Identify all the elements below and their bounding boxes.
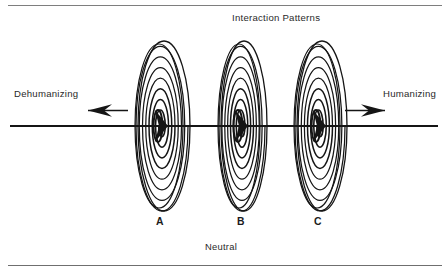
figure-title: Interaction Patterns [232, 12, 320, 23]
arrow-right-icon [345, 104, 385, 117]
node-label-c: C [314, 216, 322, 227]
node-label-b: B [237, 216, 245, 227]
interaction-patterns-figure: Interaction Patterns Dehumanizing Humani… [0, 0, 448, 274]
arrow-left-icon [88, 104, 128, 117]
axis-left-label: Dehumanizing [14, 88, 78, 99]
axis-bottom-label: Neutral [205, 241, 237, 252]
node-label-a: A [156, 216, 164, 227]
diagram-canvas [0, 0, 448, 274]
axis-right-label: Humanizing [383, 88, 436, 99]
